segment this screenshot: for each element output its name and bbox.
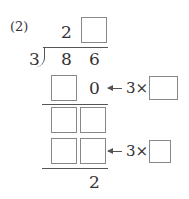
step2-ones-box[interactable] bbox=[80, 107, 106, 133]
step3-multiplier-label: 3× bbox=[126, 144, 148, 159]
step2-tens-box[interactable] bbox=[51, 107, 77, 133]
quotient-tens-digit: 2 bbox=[61, 24, 72, 41]
remainder-digit: 2 bbox=[89, 174, 100, 191]
step3-tens-box[interactable] bbox=[51, 138, 77, 164]
quotient-ones-box[interactable] bbox=[81, 17, 107, 43]
division-bracket bbox=[36, 47, 45, 67]
arrow-left-icon bbox=[108, 151, 122, 152]
arrow-left-icon bbox=[108, 88, 122, 89]
step1-ones-digit: 0 bbox=[89, 80, 100, 97]
dividend-tens-digit: 8 bbox=[61, 51, 72, 68]
step1-tens-box[interactable] bbox=[51, 75, 77, 101]
dividend-ones-digit: 6 bbox=[89, 51, 100, 68]
step3-multiplier-box[interactable] bbox=[149, 140, 171, 163]
subtraction-line-1 bbox=[42, 104, 108, 105]
step1-multiplier-label: 3× bbox=[126, 81, 148, 96]
problem-label: (2) bbox=[10, 20, 28, 33]
division-bar bbox=[43, 47, 108, 48]
step3-ones-box[interactable] bbox=[80, 138, 106, 164]
subtraction-line-2 bbox=[42, 168, 108, 169]
step1-multiplier-box[interactable] bbox=[149, 76, 178, 100]
